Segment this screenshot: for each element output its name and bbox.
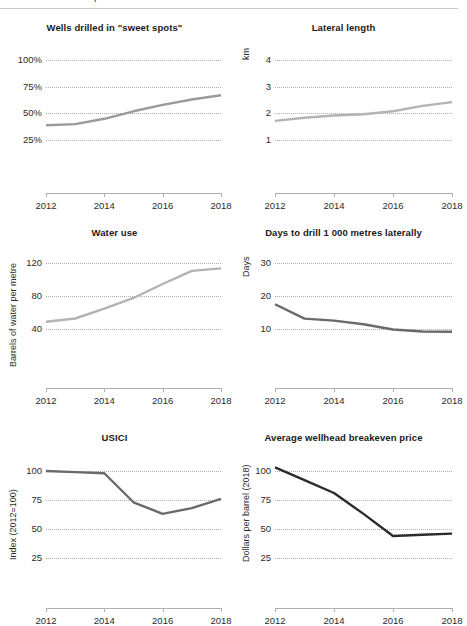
x-tick-mark — [46, 608, 47, 612]
x-tick-mark — [334, 608, 335, 612]
x-tick-mark — [221, 608, 222, 612]
x-tick-mark — [104, 388, 105, 392]
series-usici — [0, 420, 229, 625]
x-tick-label: 2012 — [26, 200, 66, 211]
series-days-to-drill — [229, 215, 458, 420]
x-tick-mark — [393, 193, 394, 197]
x-tick-mark — [334, 388, 335, 392]
x-tick-label: 2014 — [84, 200, 124, 211]
chart-panel-days-to-drill: Days to drill 1 000 metres laterallyDays… — [229, 215, 458, 420]
x-tick-label: 2012 — [26, 615, 66, 626]
x-axis-line — [275, 608, 452, 609]
x-tick-mark — [163, 608, 164, 612]
series-wells-drilled — [0, 10, 229, 215]
x-axis-line — [46, 193, 221, 194]
x-tick-mark — [104, 608, 105, 612]
x-tick-label: 2016 — [143, 200, 183, 211]
x-axis-line — [275, 193, 452, 194]
series-water-use — [0, 215, 229, 420]
x-tick-label: 2014 — [84, 395, 124, 406]
x-tick-mark — [221, 388, 222, 392]
x-tick-label: 2018 — [432, 200, 467, 211]
x-tick-mark — [334, 193, 335, 197]
x-tick-label: 2016 — [143, 395, 183, 406]
x-tick-label: 2014 — [314, 200, 354, 211]
x-tick-mark — [275, 193, 276, 197]
series-lateral-length — [229, 10, 458, 215]
x-tick-label: 2012 — [255, 395, 295, 406]
series-breakeven-price — [229, 420, 458, 625]
x-tick-mark — [275, 388, 276, 392]
x-axis-line — [46, 608, 221, 609]
chart-panel-lateral-length: Lateral lengthkm12342012201420162018 — [229, 10, 458, 215]
x-tick-label: 2016 — [373, 615, 413, 626]
chart-panel-usici: USICIIndex (2012=100)2550751002012201420… — [0, 420, 229, 625]
x-tick-mark — [46, 388, 47, 392]
x-tick-mark — [104, 193, 105, 197]
x-tick-label: 2016 — [373, 200, 413, 211]
x-tick-mark — [393, 388, 394, 392]
x-tick-label: 2012 — [255, 615, 295, 626]
x-tick-mark — [163, 388, 164, 392]
x-tick-label: 2012 — [255, 200, 295, 211]
x-tick-mark — [452, 193, 453, 197]
chart-panel-water-use: Water useBarrels of water per metre40801… — [0, 215, 229, 420]
x-axis-line — [275, 388, 452, 389]
x-tick-label: 2018 — [432, 395, 467, 406]
chart-panel-wells-drilled: Wells drilled in "sweet spots"25%50%75%1… — [0, 10, 229, 215]
x-tick-mark — [221, 193, 222, 197]
x-axis-line — [46, 388, 221, 389]
x-tick-mark — [452, 388, 453, 392]
chart-panel-breakeven-price: Average wellhead breakeven priceDollars … — [229, 420, 458, 625]
x-tick-mark — [275, 608, 276, 612]
x-tick-label: 2014 — [84, 615, 124, 626]
x-tick-label: 2016 — [143, 615, 183, 626]
x-tick-mark — [452, 608, 453, 612]
x-tick-mark — [163, 193, 164, 197]
x-tick-mark — [393, 608, 394, 612]
x-tick-label: 2018 — [432, 615, 467, 626]
x-tick-label: 2016 — [373, 395, 413, 406]
x-tick-label: 2014 — [314, 395, 354, 406]
x-tick-mark — [46, 193, 47, 197]
x-tick-label: 2014 — [314, 615, 354, 626]
x-tick-label: 2012 — [26, 395, 66, 406]
